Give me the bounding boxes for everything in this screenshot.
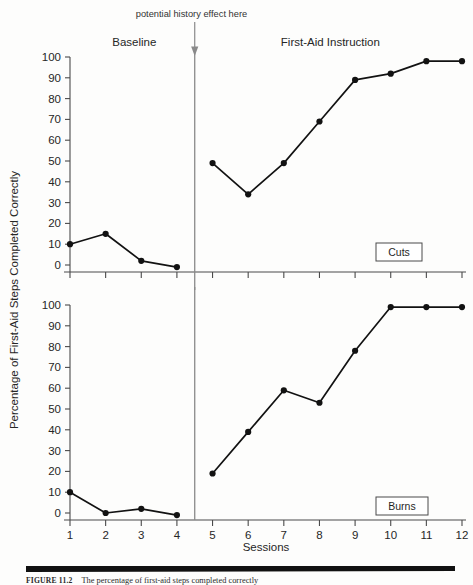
x-tick-label: 9 — [352, 529, 358, 541]
y-tick-label: 100 — [42, 51, 61, 63]
x-tick-label: 10 — [384, 529, 397, 541]
data-point — [388, 304, 394, 310]
figure-caption-label: FIGURE 11.2 — [26, 576, 73, 585]
data-point — [245, 429, 251, 435]
top-panel-tag: Cuts — [376, 243, 422, 261]
data-point — [459, 304, 465, 310]
y-tick-label: 90 — [48, 320, 61, 332]
data-point — [174, 264, 180, 270]
data-point — [423, 58, 429, 64]
data-point — [103, 231, 109, 237]
history-effect-annotation: potential history effect here — [136, 9, 247, 19]
series-line-baseline — [70, 492, 177, 515]
figure-caption-text: The percentage of first-aid steps comple… — [81, 576, 259, 585]
top-panel-series — [67, 58, 465, 270]
panel-bottom-burns: 0102030405060708090100 123456789101112 B… — [42, 287, 469, 541]
x-tick-label: 3 — [138, 529, 144, 541]
y-tick-label: 40 — [48, 176, 61, 188]
x-tick-label: 2 — [102, 529, 108, 541]
y-tick-label: 10 — [48, 486, 61, 498]
data-point — [138, 258, 144, 264]
figure-container: potential history effect here Baseline F… — [0, 0, 473, 585]
phase-label-intervention: First-Aid Instruction — [281, 36, 380, 48]
x-tick-label: 5 — [209, 529, 215, 541]
y-tick-label: 40 — [48, 424, 61, 436]
data-point — [316, 400, 322, 406]
phase-titles: Baseline First-Aid Instruction — [112, 36, 380, 48]
data-point — [423, 304, 429, 310]
x-tick-label: 12 — [456, 529, 469, 541]
series-line-first-aid-instruction — [213, 61, 462, 194]
y-tick-label: 60 — [48, 382, 61, 394]
y-tick-label: 70 — [48, 361, 61, 373]
burns-tag-label: Burns — [388, 500, 415, 512]
y-tick-label: 20 — [48, 465, 61, 477]
y-tick-label: 50 — [48, 155, 61, 167]
bottom-panel-series — [67, 304, 465, 518]
data-point — [352, 348, 358, 354]
y-tick-label: 0 — [55, 507, 61, 519]
y-tick-label: 60 — [48, 134, 61, 146]
data-point — [459, 58, 465, 64]
y-tick-label: 80 — [48, 93, 61, 105]
bottom-panel-tag: Burns — [376, 497, 428, 515]
y-tick-label: 10 — [48, 238, 61, 250]
bottom-panel-x-tick-labels: 123456789101112 — [67, 529, 469, 541]
data-point — [388, 71, 394, 77]
bottom-panel-axes — [64, 305, 466, 526]
series-line-first-aid-instruction — [213, 307, 462, 473]
data-point — [209, 160, 215, 166]
annotation-group: potential history effect here — [136, 9, 247, 56]
data-point — [174, 512, 180, 518]
bottom-panel-y-tick-labels: 0102030405060708090100 — [42, 299, 61, 519]
y-tick-label: 70 — [48, 113, 61, 125]
data-point — [209, 470, 215, 476]
data-point — [67, 241, 73, 247]
y-tick-label: 90 — [48, 72, 61, 84]
data-point — [67, 489, 73, 495]
data-point — [245, 191, 251, 197]
data-point — [103, 510, 109, 516]
y-tick-label: 30 — [48, 445, 61, 457]
x-axis-title: Sessions — [243, 541, 290, 553]
panel-top-cuts: 0102030405060708090100 Cuts — [42, 51, 466, 290]
figure-caption: FIGURE 11.2 The percentage of first-aid … — [26, 576, 259, 585]
x-tick-label: 7 — [281, 529, 287, 541]
data-point — [352, 77, 358, 83]
data-point — [281, 387, 287, 393]
y-tick-label: 80 — [48, 341, 61, 353]
phase-label-baseline: Baseline — [112, 36, 156, 48]
top-panel-y-tick-labels: 0102030405060708090100 — [42, 51, 61, 271]
multiple-baseline-chart: potential history effect here Baseline F… — [0, 0, 473, 585]
series-line-baseline — [70, 234, 177, 267]
y-tick-label: 50 — [48, 403, 61, 415]
y-tick-label: 20 — [48, 217, 61, 229]
x-tick-label: 4 — [174, 529, 181, 541]
caption-rule — [26, 566, 455, 572]
data-point — [316, 118, 322, 124]
y-tick-label: 30 — [48, 197, 61, 209]
data-point — [138, 506, 144, 512]
y-tick-label: 100 — [42, 299, 61, 311]
x-tick-label: 6 — [245, 529, 251, 541]
cuts-tag-label: Cuts — [388, 246, 410, 258]
data-point — [281, 160, 287, 166]
y-axis-title: Percentage of First-Aid Steps Completed … — [8, 171, 20, 429]
x-tick-label: 8 — [316, 529, 322, 541]
x-tick-label: 11 — [420, 529, 432, 541]
y-tick-label: 0 — [55, 259, 61, 271]
x-tick-label: 1 — [67, 529, 73, 541]
